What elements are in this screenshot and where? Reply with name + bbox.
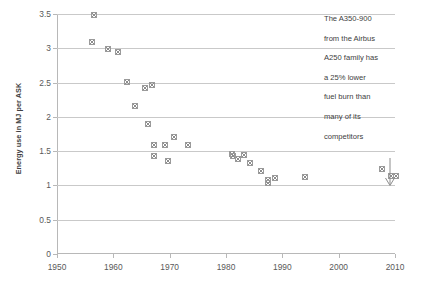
data-point (91, 12, 96, 17)
x-tick-label: 2000 (329, 262, 348, 272)
x-tick-label: 1980 (217, 262, 236, 272)
data-point (132, 103, 137, 108)
data-point (142, 85, 147, 90)
annotation-line: fuel burn than (324, 87, 432, 107)
y-tick-label: 1 (46, 180, 51, 190)
data-point (235, 156, 240, 161)
data-point (151, 153, 156, 158)
data-point (124, 79, 129, 84)
x-tick-label: 1990 (273, 262, 292, 272)
gridline-horizontal (57, 151, 395, 152)
y-tick-label: 2 (46, 112, 51, 122)
x-tick-label: 1960 (104, 262, 123, 272)
x-tick-label: 2010 (386, 262, 405, 272)
chart-annotation: The A350-900from the AirbusA250 family h… (324, 9, 432, 146)
data-point (115, 49, 120, 54)
data-point (241, 152, 246, 157)
x-tick-mark (113, 254, 114, 258)
data-point (265, 180, 270, 185)
y-axis-line (57, 14, 58, 254)
annotation-line: The A350-900 (324, 9, 432, 29)
annotation-line: competitors (324, 127, 432, 147)
x-tick-mark (339, 254, 340, 258)
data-point (145, 121, 150, 126)
x-tick-label: 1970 (160, 262, 179, 272)
y-tick-label: 0 (46, 249, 51, 259)
y-tick-mark (53, 14, 57, 15)
gridline-horizontal (57, 185, 395, 186)
x-tick-mark (395, 254, 396, 258)
y-tick-mark (53, 220, 57, 221)
x-tick-mark (226, 254, 227, 258)
data-point (149, 82, 154, 87)
y-tick-label: 2.5 (39, 78, 51, 88)
scatter-chart: Energy use in MJ per ASK 00.511.522.533.… (0, 0, 432, 286)
x-tick-mark (57, 254, 58, 258)
data-point (105, 46, 110, 51)
y-tick-label: 1.5 (39, 146, 51, 156)
data-point (89, 39, 94, 44)
y-tick-mark (53, 83, 57, 84)
data-point (165, 158, 170, 163)
y-tick-label: 0.5 (39, 215, 51, 225)
y-tick-mark (53, 48, 57, 49)
data-point (258, 168, 263, 173)
data-point (151, 142, 156, 147)
y-tick-mark (53, 151, 57, 152)
y-tick-label: 3 (46, 43, 51, 53)
x-tick-mark (170, 254, 171, 258)
gridline-horizontal (57, 220, 395, 221)
y-tick-mark (53, 185, 57, 186)
annotation-line: many of its (324, 107, 432, 127)
data-point (247, 160, 252, 165)
data-point (302, 174, 307, 179)
y-tick-label: 3.5 (39, 9, 51, 19)
y-axis-title: Energy use in MJ per ASK (14, 49, 23, 209)
data-point (272, 175, 277, 180)
down-arrow-icon (383, 158, 397, 188)
annotation-line: A250 family has (324, 48, 432, 68)
data-point (162, 142, 167, 147)
x-tick-label: 1950 (48, 262, 67, 272)
data-point (185, 142, 190, 147)
annotation-line: a 25% lower (324, 68, 432, 88)
annotation-line: from the Airbus (324, 29, 432, 49)
y-tick-mark (53, 117, 57, 118)
data-point (171, 134, 176, 139)
x-tick-mark (282, 254, 283, 258)
